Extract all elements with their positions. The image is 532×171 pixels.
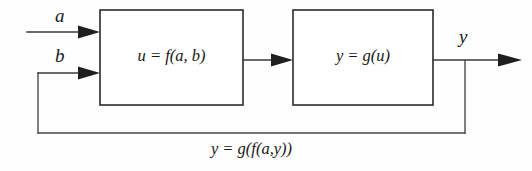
signal-label-a: a [55, 6, 65, 25]
interconnect-arrowhead [271, 54, 293, 67]
block-diagram: a b y u = f(a, b) y = g(u) y = g(f(a,y)) [0, 0, 532, 171]
feedback-caption-label: y = g(f(a,y)) [38, 141, 465, 158]
forward-block-expression: u = f(a, b) [100, 48, 243, 65]
output-block-expression: y = g(u) [293, 48, 433, 65]
input-b-arrowhead [78, 67, 100, 80]
signal-label-y: y [459, 27, 467, 46]
output-y-arrowhead [498, 54, 522, 67]
signal-label-b: b [55, 46, 65, 65]
input-a-arrowhead [78, 26, 100, 39]
